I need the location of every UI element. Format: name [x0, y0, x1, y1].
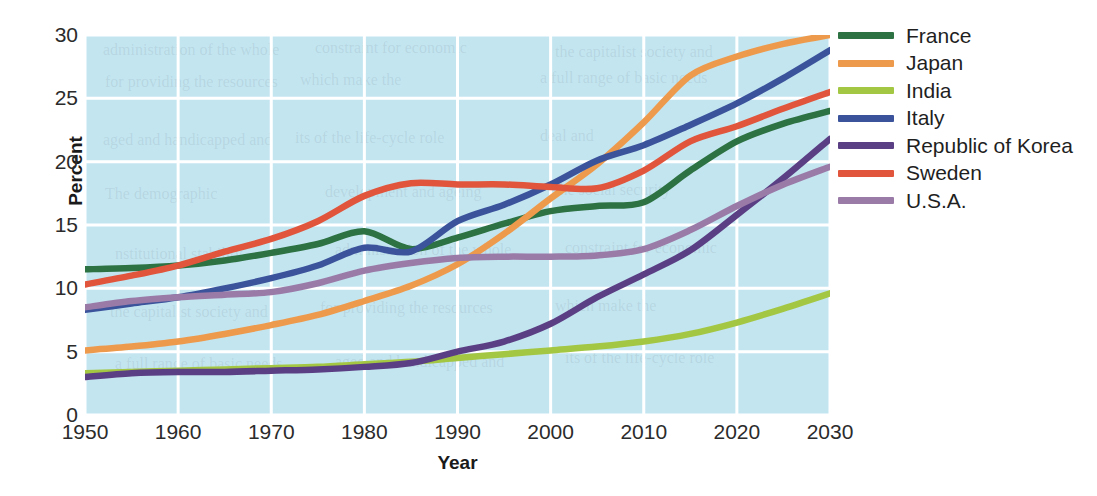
- legend-label-japan: Japan: [906, 51, 963, 75]
- plot-area: administration of the wholeconstraint fo…: [85, 35, 830, 415]
- y-tick-15: 15: [38, 214, 78, 235]
- y-tick-20: 20: [38, 151, 78, 172]
- legend-swatch-france: [838, 32, 894, 39]
- legend-label-republic-of-korea: Republic of Korea: [906, 134, 1073, 158]
- legend-swatch-u-s-a: [838, 197, 894, 204]
- legend-item-italy[interactable]: Italy: [838, 105, 1088, 133]
- y-tick-10: 10: [38, 277, 78, 298]
- y-tick-30: 30: [38, 24, 78, 45]
- y-tick-25: 25: [38, 87, 78, 108]
- legend-label-india: India: [906, 79, 952, 103]
- legend-item-france[interactable]: France: [838, 22, 1088, 50]
- legend-item-india[interactable]: India: [838, 77, 1088, 105]
- x-axis-title: Year: [85, 452, 830, 474]
- legend-item-republic-of-korea[interactable]: Republic of Korea: [838, 132, 1088, 160]
- legend-swatch-sweden: [838, 170, 894, 177]
- x-tick-1990: 1990: [418, 420, 498, 444]
- line-chart-figure: Percent Year 051015202530 19501960197019…: [0, 0, 1097, 496]
- legend-item-japan[interactable]: Japan: [838, 50, 1088, 78]
- chart-legend: FranceJapanIndiaItalyRepublic of KoreaSw…: [838, 22, 1088, 215]
- x-tick-2020: 2020: [697, 420, 777, 444]
- legend-item-sweden[interactable]: Sweden: [838, 160, 1088, 188]
- x-tick-2030: 2030: [790, 420, 870, 444]
- x-tick-2010: 2010: [604, 420, 684, 444]
- x-tick-1980: 1980: [324, 420, 404, 444]
- legend-label-france: France: [906, 24, 971, 48]
- legend-swatch-india: [838, 87, 894, 94]
- legend-label-italy: Italy: [906, 106, 945, 130]
- x-tick-1950: 1950: [45, 420, 125, 444]
- legend-label-u-s-a: U.S.A.: [906, 189, 967, 213]
- x-tick-1960: 1960: [138, 420, 218, 444]
- plot-lines-svg: [85, 35, 830, 415]
- legend-swatch-republic-of-korea: [838, 142, 894, 149]
- x-tick-1970: 1970: [231, 420, 311, 444]
- legend-swatch-italy: [838, 115, 894, 122]
- legend-swatch-japan: [838, 60, 894, 67]
- x-tick-2000: 2000: [511, 420, 591, 444]
- y-tick-5: 5: [38, 341, 78, 362]
- legend-label-sweden: Sweden: [906, 161, 982, 185]
- legend-item-u-s-a[interactable]: U.S.A.: [838, 187, 1088, 215]
